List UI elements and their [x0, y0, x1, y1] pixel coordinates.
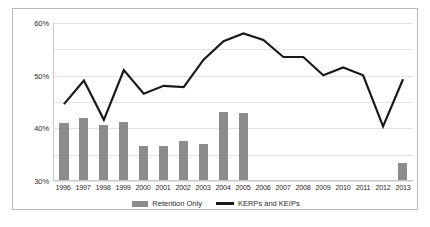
- x-axis-tick-label: 2011: [353, 183, 373, 192]
- x-axis-tick-label: 2007: [273, 183, 293, 192]
- x-axis-tick-label: 2004: [213, 183, 233, 192]
- chart-frame: 0%10%20%30%40%50%60% 1996199719981999200…: [12, 8, 418, 210]
- y-axis-tick-label: 40%: [34, 124, 49, 133]
- line-series-kerps-and-keips: [54, 23, 413, 180]
- x-axis-tick-label: 2013: [393, 183, 413, 192]
- legend-item-kerps-and-keips[interactable]: KERPs and KEIPs: [216, 199, 300, 208]
- x-axis-labels: 1996199719981999200020012002200320042005…: [53, 183, 413, 192]
- x-axis-tick-label: 2003: [193, 183, 213, 192]
- x-axis-tick-label: 1997: [73, 183, 93, 192]
- line-swatch-icon: [216, 202, 234, 205]
- x-axis-tick-label: 2002: [173, 183, 193, 192]
- chart-legend: Retention Only KERPs and KEIPs: [13, 199, 419, 208]
- bar-swatch-icon: [132, 201, 148, 207]
- x-axis-tick-label: 1999: [113, 183, 133, 192]
- x-axis-tick-label: 2001: [153, 183, 173, 192]
- x-axis-tick-label: 1998: [93, 183, 113, 192]
- plot-area: 0%10%20%30%40%50%60%: [53, 23, 413, 181]
- gridline: 0%: [54, 181, 413, 182]
- y-axis-tick-label: 60%: [34, 19, 49, 28]
- x-axis-tick-label: 2006: [253, 183, 273, 192]
- chart-figure: 0%10%20%30%40%50%60% 1996199719981999200…: [0, 0, 430, 227]
- x-axis-tick-label: 1996: [53, 183, 73, 192]
- x-axis-tick-label: 2000: [133, 183, 153, 192]
- legend-label-retention-only: Retention Only: [152, 199, 202, 208]
- y-axis-tick-label: 30%: [34, 177, 49, 186]
- x-axis-tick-label: 2009: [313, 183, 333, 192]
- x-axis-tick-label: 2008: [293, 183, 313, 192]
- x-axis-tick-label: 2005: [233, 183, 253, 192]
- y-axis-tick-label: 50%: [34, 71, 49, 80]
- x-axis-tick-label: 2010: [333, 183, 353, 192]
- legend-item-retention-only[interactable]: Retention Only: [132, 199, 202, 208]
- legend-label-kerps-and-keips: KERPs and KEIPs: [238, 199, 300, 208]
- x-axis-tick-label: 2012: [373, 183, 393, 192]
